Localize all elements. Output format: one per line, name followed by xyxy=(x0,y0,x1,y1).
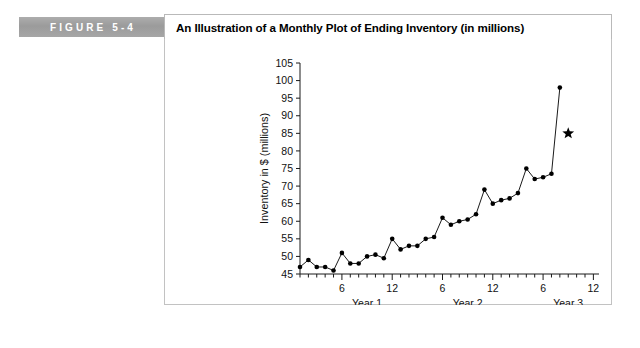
data-point-marker xyxy=(323,265,328,270)
x-tick-label: 12 xyxy=(588,282,600,294)
page-title: An Illustration of a Monthly Plot of End… xyxy=(165,21,524,34)
data-point-marker xyxy=(348,261,353,266)
data-point-marker xyxy=(398,247,403,252)
figure-number-badge: FIGURE 5-4 xyxy=(19,17,164,37)
y-tick-label: 45 xyxy=(281,268,293,280)
y-tick-label: 105 xyxy=(275,57,293,69)
figure-number-label: FIGURE 5-4 xyxy=(50,22,136,33)
data-point-marker xyxy=(457,219,462,224)
x-tick-label: 6 xyxy=(339,282,345,294)
series-line xyxy=(300,88,560,271)
y-tick-label: 80 xyxy=(281,145,293,157)
y-tick-label: 95 xyxy=(281,92,293,104)
data-point-marker xyxy=(482,187,487,192)
x-tick-label: 6 xyxy=(440,282,446,294)
data-point-marker xyxy=(549,171,554,176)
data-point-marker xyxy=(407,244,412,249)
data-point-marker xyxy=(524,166,529,171)
data-point-marker xyxy=(432,235,437,240)
data-point-marker xyxy=(298,265,303,270)
y-tick-label: 100 xyxy=(275,74,293,86)
data-point-marker xyxy=(507,196,512,201)
y-tick-label: 70 xyxy=(281,180,293,192)
chart-panel: 4550556065707580859095100105612612612Yea… xyxy=(164,39,612,305)
data-point-marker xyxy=(314,265,319,270)
y-tick-label: 60 xyxy=(281,215,293,227)
data-point-marker xyxy=(449,222,454,227)
y-tick-label: 50 xyxy=(281,250,293,262)
data-point-marker xyxy=(490,201,495,206)
data-point-marker xyxy=(415,244,420,249)
data-point-marker xyxy=(474,212,479,217)
year-label: Year 1 xyxy=(352,297,382,305)
data-point-marker xyxy=(331,268,336,273)
data-point-marker xyxy=(465,217,470,222)
data-point-marker xyxy=(558,85,563,90)
data-point-marker xyxy=(390,237,395,242)
data-point-marker xyxy=(423,237,428,242)
data-point-marker xyxy=(365,254,370,259)
data-point-marker xyxy=(541,175,546,180)
y-tick-label: 65 xyxy=(281,197,293,209)
data-point-marker xyxy=(440,215,445,220)
x-tick-label: 6 xyxy=(540,282,546,294)
data-point-marker xyxy=(382,256,387,261)
y-tick-label: 75 xyxy=(281,162,293,174)
figure-title-bar: An Illustration of a Monthly Plot of End… xyxy=(164,14,612,40)
plot-area: 4550556065707580859095100105612612612Yea… xyxy=(165,39,613,305)
data-point-marker xyxy=(516,191,521,196)
x-tick-label: 12 xyxy=(487,282,499,294)
y-tick-label: 90 xyxy=(281,109,293,121)
x-tick-label: 12 xyxy=(386,282,398,294)
year-label: Year 3 xyxy=(553,297,583,305)
data-point-marker xyxy=(532,177,537,182)
data-point-marker xyxy=(356,261,361,266)
data-point-marker xyxy=(373,252,378,257)
star-marker xyxy=(562,127,574,138)
year-label: Year 2 xyxy=(453,297,483,305)
data-point-marker xyxy=(499,198,504,203)
data-point-marker xyxy=(306,258,311,263)
figure-container: FIGURE 5-4 An Illustration of a Monthly … xyxy=(0,0,640,348)
y-tick-label: 85 xyxy=(281,127,293,139)
y-axis-title: Inventory in $ (millions) xyxy=(258,113,270,224)
y-tick-label: 55 xyxy=(281,232,293,244)
data-point-marker xyxy=(340,251,345,256)
inventory-line-chart: 4550556065707580859095100105612612612Yea… xyxy=(165,39,613,305)
